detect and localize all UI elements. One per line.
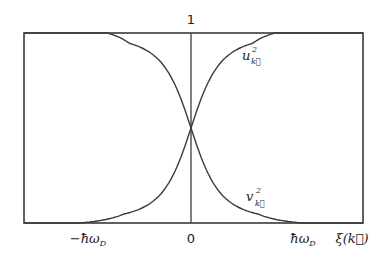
u-squared-label: u (242, 48, 250, 63)
tick-label-minus-hbar-omega-d: −ħωD (70, 231, 107, 248)
v-squared-superscript: 2 (255, 186, 261, 195)
x-axis-label-xi-k: ξ(k⃗) (336, 231, 369, 246)
tick-label-hbar-omega-d: ħωD (290, 231, 316, 248)
v-squared-label: v (246, 189, 254, 204)
tick-label-zero: 0 (187, 231, 195, 246)
v-squared-subscript: k⃗ (255, 199, 265, 208)
curve-v-squared (24, 33, 363, 223)
u-squared-superscript: 2 (251, 45, 257, 54)
u-squared-subscript: k⃗ (251, 57, 261, 66)
u-squared-symbol: u (242, 48, 250, 63)
coherence-factor-diagram: 1 u 2 k⃗ v 2 k⃗ −ħωD 0 ħωD ξ(k⃗) (0, 0, 385, 263)
v-squared-symbol: v (246, 189, 254, 204)
curve-u-squared (24, 33, 363, 223)
plot-frame (24, 33, 363, 223)
top-value-label: 1 (187, 12, 195, 27)
